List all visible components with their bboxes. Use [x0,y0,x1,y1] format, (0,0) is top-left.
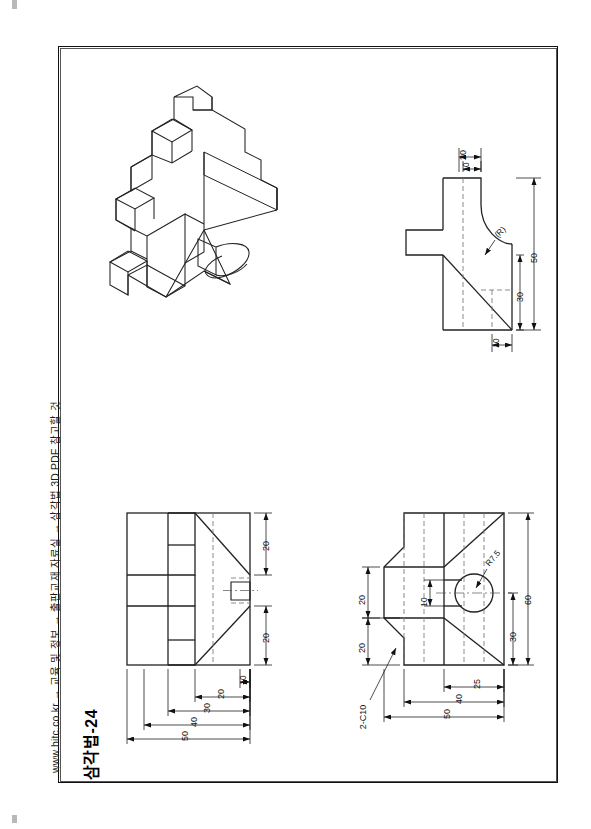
drawing-frame-inner [60,48,557,782]
reference-url-line: www.hitc.co.kr → 교육 및 정보 → 출판교재 자료실 → 삼각… [47,401,62,773]
scan-edge-mark-bottom [12,815,17,823]
scan-edge-mark-top [12,0,17,9]
drawing-sheet: www.hitc.co.kr → 교육 및 정보 → 출판교재 자료실 → 삼각… [0,0,591,829]
sheet-title: 삼각법-24 [78,709,102,780]
